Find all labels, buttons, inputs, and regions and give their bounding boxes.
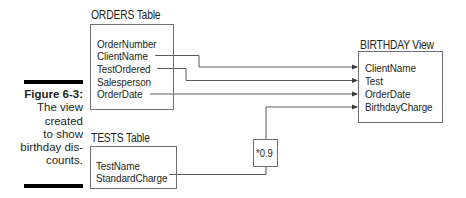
wire-clientname (155, 56, 357, 68)
orders-table-title: ORDERS Table (91, 8, 160, 22)
orders-field-clientname: ClientName (97, 50, 148, 63)
birthday-view-box: ClientName Test OrderDate BirthdayCharge (358, 51, 443, 123)
multiplier-label: *0.9 (256, 147, 273, 159)
view-field-clientname: ClientName (365, 62, 416, 75)
wire-testordered (157, 69, 357, 81)
tests-table-box: TestName StandardCharge (90, 146, 177, 189)
birthday-view-title: BIRTHDAY View (360, 38, 434, 52)
tests-table-title: TESTS Table (91, 131, 150, 145)
view-field-orderdate: OrderDate (365, 88, 410, 101)
tests-field-standardcharge: StandardCharge (96, 172, 167, 185)
view-field-birthdaycharge: BirthdayCharge (365, 101, 433, 114)
wire-standardcharge (169, 167, 266, 175)
multiplier-box: *0.9 (253, 139, 278, 167)
orders-field-testordered: TestOrdered (97, 63, 150, 76)
orders-field-orderdate: OrderDate (97, 88, 142, 101)
view-field-test: Test (365, 75, 383, 88)
wire-birthdaycharge (266, 107, 357, 139)
orders-table-box: OrderNumber ClientName TestOrdered Sales… (90, 24, 174, 110)
